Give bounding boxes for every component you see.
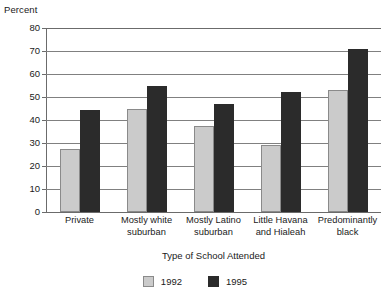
x-axis-category-labels: PrivateMostly whitesuburbanMostly Latino…	[46, 215, 381, 249]
bar-chart: Percent 01020304050607080 PrivateMostly …	[0, 0, 390, 303]
y-tick-label-60: 60	[0, 69, 40, 79]
bar-1995-2	[147, 86, 167, 213]
x-category-label-line: black	[308, 227, 387, 239]
legend-swatch-icon-1992	[143, 276, 154, 287]
y-tick-label-30: 30	[0, 138, 40, 148]
bar-1992-1	[60, 149, 80, 212]
bar-1992-5	[328, 90, 348, 212]
y-tick-label-0: 0	[0, 207, 40, 217]
bar-1995-5	[348, 49, 368, 212]
y-tick-label-80: 80	[0, 23, 40, 33]
bar-1995-1	[80, 110, 100, 212]
legend-item-1995[interactable]: 1995	[208, 276, 247, 287]
x-category-label-line: Predominantly	[308, 215, 387, 227]
bars-layer	[46, 28, 381, 212]
legend-item-1992[interactable]: 1992	[143, 276, 182, 287]
x-category-label-5: Predominantlyblack	[308, 215, 387, 238]
legend-label-1995: 1995	[226, 276, 247, 287]
legend-label-1992: 1992	[161, 276, 182, 287]
legend-swatch-icon-1995	[208, 276, 219, 287]
gridline-0	[46, 212, 381, 213]
bar-1995-3	[214, 104, 234, 212]
y-tick-label-40: 40	[0, 115, 40, 125]
bar-1995-4	[281, 92, 301, 212]
x-axis-title: Type of School Attended	[46, 250, 381, 261]
chart-legend: 19921995	[0, 276, 390, 287]
bar-1992-3	[194, 126, 214, 212]
y-tick-mark-0	[42, 212, 46, 213]
y-tick-label-70: 70	[0, 46, 40, 56]
y-tick-label-50: 50	[0, 92, 40, 102]
bar-1992-2	[127, 109, 147, 213]
bar-1992-4	[261, 145, 281, 212]
y-tick-label-20: 20	[0, 161, 40, 171]
y-tick-label-10: 10	[0, 184, 40, 194]
y-axis-title: Percent	[4, 4, 37, 15]
